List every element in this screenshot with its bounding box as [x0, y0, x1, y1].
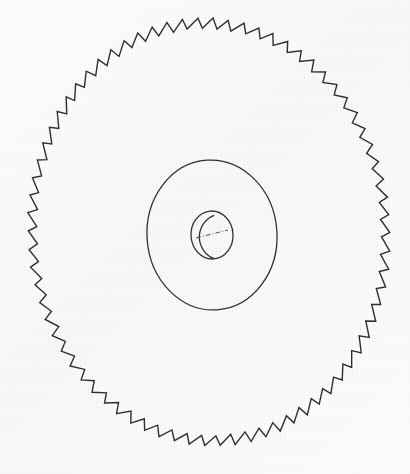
drawing-canvas: Circular Saw Blade	[0, 0, 410, 474]
arbor-bore-circle	[189, 210, 234, 261]
blade-outline-group	[28, 18, 390, 445]
bore-group	[189, 210, 234, 261]
hub-flange-circle	[142, 156, 282, 315]
hub-group	[142, 156, 282, 315]
bore-wall-thickness	[199, 215, 214, 258]
saw-teeth-outline	[28, 18, 390, 445]
saw-blade-illustration	[0, 0, 410, 474]
bore-centerline	[196, 230, 228, 238]
